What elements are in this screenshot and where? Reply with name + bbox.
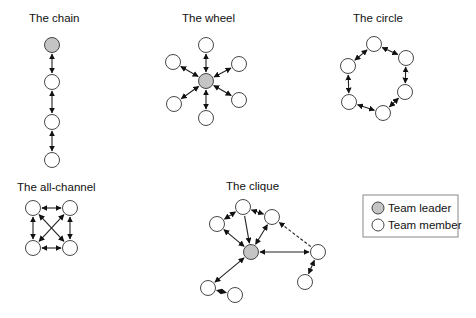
network-title-circle: The circle xyxy=(353,12,403,24)
team-member-node xyxy=(367,37,382,52)
connection-arrow xyxy=(214,86,231,96)
team-member-node xyxy=(201,281,216,296)
network-chain: The chain xyxy=(29,12,80,168)
team-member-node xyxy=(210,217,225,232)
connection-arrow xyxy=(252,210,264,214)
team-member-node xyxy=(26,201,41,216)
team-member-node xyxy=(63,241,78,256)
connection-arrow xyxy=(214,68,231,77)
team-member-swatch-icon xyxy=(372,219,384,231)
team-member-node xyxy=(63,201,78,216)
team-member-node xyxy=(376,106,391,121)
legend-label-team-member: Team member xyxy=(388,219,462,231)
connection-arrow xyxy=(215,258,244,282)
legend: Team leader Team member xyxy=(363,195,462,237)
legend-label-team-leader: Team leader xyxy=(388,202,451,214)
team-member-node xyxy=(199,38,214,53)
team-member-node xyxy=(45,115,60,130)
team-member-node xyxy=(228,288,243,303)
team-member-node xyxy=(167,97,182,112)
team-member-node xyxy=(26,241,41,256)
communication-networks-diagram: The chainThe wheelThe circleThe all-chan… xyxy=(0,0,476,318)
network-clique: The clique xyxy=(201,180,326,303)
team-leader-node xyxy=(244,245,259,260)
connection-arrow xyxy=(225,212,236,219)
team-member-node xyxy=(398,85,413,100)
connection-arrow xyxy=(348,75,349,93)
network-title-clique: The clique xyxy=(226,180,279,192)
connection-arrow xyxy=(358,105,375,110)
connection-arrow xyxy=(245,216,250,243)
connection-arrow xyxy=(309,260,315,273)
team-member-node xyxy=(265,210,280,225)
team-member-node xyxy=(166,55,181,70)
team-member-node xyxy=(236,200,251,215)
team-member-node xyxy=(232,93,247,108)
network-title-all-channel: The all-channel xyxy=(17,181,96,193)
connection-arrow xyxy=(279,222,311,246)
network-all-channel: The all-channel xyxy=(17,181,96,256)
connection-arrow xyxy=(224,230,244,247)
connection-arrow xyxy=(181,67,198,77)
team-leader-node xyxy=(199,74,214,89)
team-member-node xyxy=(45,153,60,168)
team-member-node xyxy=(45,75,60,90)
team-member-node xyxy=(298,275,313,290)
team-member-node xyxy=(342,95,357,110)
network-circle: The circle xyxy=(341,12,414,121)
team-leader-node xyxy=(45,38,60,53)
team-member-node xyxy=(341,59,356,74)
team-leader-swatch-icon xyxy=(372,202,384,214)
connection-arrow xyxy=(181,86,198,98)
connection-arrow xyxy=(217,290,227,292)
network-wheel: The wheel xyxy=(166,12,247,126)
connection-arrow xyxy=(256,225,268,245)
connection-arrow xyxy=(355,50,367,60)
network-title-wheel: The wheel xyxy=(182,12,235,24)
networks-layer: The chainThe wheelThe circleThe all-chan… xyxy=(17,12,414,303)
team-member-node xyxy=(311,245,326,260)
connection-arrow xyxy=(390,98,399,107)
team-member-node xyxy=(232,57,247,72)
team-member-node xyxy=(199,111,214,126)
team-member-node xyxy=(399,51,414,66)
connection-arrow xyxy=(382,48,398,55)
network-title-chain: The chain xyxy=(29,12,80,24)
